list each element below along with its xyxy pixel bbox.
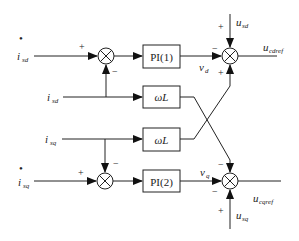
svg-text:cqref: cqref <box>259 198 274 206</box>
svg-text:i: i <box>45 133 48 145</box>
reference-dot-icon: • <box>19 32 23 44</box>
svg-text:i: i <box>17 50 20 62</box>
sum3-top-plus-sign: + <box>218 21 224 32</box>
wl-bottom-block: ωL <box>143 128 180 151</box>
sum4-bottom-plus-sign: + <box>218 205 224 216</box>
reference-dot-icon: • <box>19 162 23 174</box>
svg-text:d: d <box>205 67 209 75</box>
isq-ref-input-label: • i sq <box>18 162 30 190</box>
svg-text:sd: sd <box>242 22 249 30</box>
usq-input-label: u sq <box>236 209 249 223</box>
svg-text:q: q <box>206 172 210 180</box>
summing-junction-3 <box>222 48 238 64</box>
vd-signal-label: v d <box>199 61 209 75</box>
svg-text:sd: sd <box>52 97 59 105</box>
sum3-left-minus-sign: − <box>212 43 218 54</box>
sum2-plus-sign: + <box>78 167 84 178</box>
usd-input-label: u sd <box>236 16 249 30</box>
svg-text:sd: sd <box>22 56 29 64</box>
summing-junction-4 <box>222 173 238 189</box>
sum4-left-minus-sign: − <box>212 186 218 197</box>
svg-text:sq: sq <box>50 139 57 147</box>
svg-text:PI(2): PI(2) <box>150 176 173 189</box>
summing-junction-2 <box>97 173 113 189</box>
svg-text:cdref: cdref <box>269 47 284 55</box>
wl-top-block: ωL <box>143 86 180 108</box>
svg-text:i: i <box>47 91 50 103</box>
sum1-plus-sign: + <box>79 41 85 52</box>
svg-text:ωL: ωL <box>155 91 169 103</box>
pi1-block: PI(1) <box>143 45 180 68</box>
svg-text:i: i <box>18 176 21 188</box>
svg-text:ωL: ωL <box>155 134 169 146</box>
isq-input-label: i sq <box>45 133 57 147</box>
vq-signal-label: v q <box>200 166 210 180</box>
isd-input-label: i sd <box>47 91 59 105</box>
control-diagram: • i sd + − PI(1) − v d + u sd + u cdref … <box>0 0 299 241</box>
isd-ref-input-label: • i sd <box>17 32 29 64</box>
ucdref-output-label: u cdref <box>263 41 284 55</box>
svg-text:PI(1): PI(1) <box>150 51 173 64</box>
svg-text:v: v <box>199 61 204 73</box>
ucqref-output-label: u cqref <box>253 192 274 206</box>
svg-text:v: v <box>200 166 205 178</box>
svg-text:sq: sq <box>23 182 30 190</box>
sum2-minus-sign: − <box>113 158 119 169</box>
svg-text:sq: sq <box>242 215 249 223</box>
sum3-bottom-plus-sign: + <box>218 67 224 78</box>
sum1-minus-sign: − <box>112 66 118 77</box>
sum4-top-minus-sign: − <box>218 159 224 170</box>
pi2-block: PI(2) <box>143 170 180 192</box>
summing-junction-1 <box>98 48 114 64</box>
